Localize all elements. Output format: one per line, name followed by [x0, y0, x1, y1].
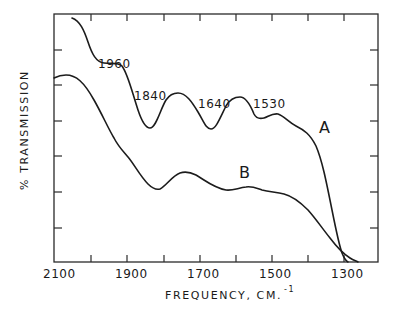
x-axis-label-text: FREQUENCY, CM.	[165, 289, 282, 302]
series-label-b: B	[239, 163, 250, 182]
y-axis-label: % TRANSMISSION	[18, 70, 31, 190]
peak-label-1960: 1960	[98, 57, 131, 71]
x-tick-label-2100: 2100	[43, 267, 76, 281]
curve-a	[72, 18, 348, 262]
peak-label-1840: 1840	[134, 89, 167, 103]
x-axis-label-superscript: -1	[284, 285, 295, 294]
x-tick-label-1700: 1700	[187, 267, 220, 281]
peak-label-1640: 1640	[198, 97, 231, 111]
ir-spectrum-chart: 2100 1900 1700 1500 1300 FREQUENCY, CM.-…	[0, 0, 394, 315]
x-tick-label-1900: 1900	[115, 267, 148, 281]
x-tick-label-1500: 1500	[259, 267, 292, 281]
plot-frame	[54, 14, 378, 262]
x-axis-ticks-top	[91, 14, 344, 21]
peak-label-1530: 1530	[253, 97, 286, 111]
x-axis-ticks-bottom	[91, 255, 344, 262]
y-axis-ticks-right	[370, 50, 378, 228]
series-label-a: A	[319, 118, 330, 137]
x-tick-label-1300: 1300	[331, 267, 364, 281]
x-axis-label: FREQUENCY, CM.-1	[165, 285, 295, 302]
